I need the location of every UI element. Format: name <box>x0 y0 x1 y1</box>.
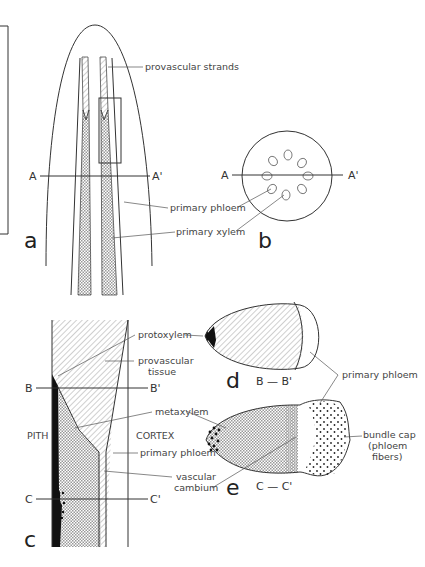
section-label-b-left: A <box>221 169 229 182</box>
section-label-e: C — C' <box>256 480 292 493</box>
label-provascular-tissue-2: tissue <box>148 366 176 377</box>
section-label-d: B — B' <box>256 375 292 388</box>
primary-phloem-bracket <box>310 352 338 403</box>
panel-letter-c: c <box>24 527 36 552</box>
panel-letter-e: e <box>226 475 240 500</box>
label-primary-phloem-de: primary phloem <box>342 369 418 380</box>
panel-d-cross-section-b: d B — B' <box>185 300 319 393</box>
label-metaxylem: metaxylem <box>155 406 209 417</box>
label-primary-phloem-a: primary phloem <box>170 202 246 213</box>
left-bracket-frame <box>0 26 8 234</box>
section-label-a-right: A' <box>152 170 163 183</box>
label-cortex: CORTEX <box>136 430 175 441</box>
label-vascular-cambium-1: vascular <box>176 471 216 482</box>
section-label-b-right: A' <box>348 169 359 182</box>
section-label-c-c-right: C' <box>150 493 161 506</box>
label-primary-phloem-c: primary phloem <box>140 447 216 458</box>
label-pith: PITH <box>27 430 48 441</box>
section-label-c-b-left: B <box>25 382 33 395</box>
label-provascular-strands: provascular strands <box>145 61 239 72</box>
panel-letter-a: a <box>24 228 37 253</box>
section-label-c-c-left: C <box>25 493 33 506</box>
diagram-canvas: A A' a provascular strands primary phloe… <box>0 0 425 567</box>
label-primary-xylem-a: primary xylem <box>176 226 245 237</box>
label-protoxylem: protoxylem <box>138 329 192 340</box>
panel-letter-b: b <box>258 228 272 253</box>
panel-letter-d: d <box>226 368 240 393</box>
section-label-c-b-right: B' <box>150 382 161 395</box>
label-bundle-cap-2: (phloem <box>368 440 407 451</box>
label-bundle-cap-3: fibers) <box>372 451 402 462</box>
label-provascular-tissue-1: provascular <box>138 355 194 366</box>
label-bundle-cap-1: bundle cap <box>363 429 416 440</box>
label-vascular-cambium-2: cambium <box>174 482 218 493</box>
section-label-a-left: A <box>29 170 37 183</box>
